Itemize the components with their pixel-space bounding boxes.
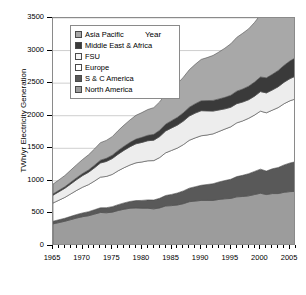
x-tick-label: 1985 — [162, 254, 179, 262]
x-major-tick — [141, 245, 142, 249]
x-minor-tick — [277, 245, 278, 248]
x-minor-tick — [153, 245, 154, 248]
x-minor-tick — [176, 245, 177, 248]
y-axis-title: TWh/yr Electricity Generation — [19, 36, 28, 206]
y-tick-label: 1000 — [27, 176, 44, 184]
x-major-tick — [82, 245, 83, 249]
x-axis-title: Year — [0, 30, 306, 39]
x-minor-tick — [159, 245, 160, 248]
x-major-tick — [200, 245, 201, 249]
x-tick-label: 1975 — [103, 254, 120, 262]
legend-swatch-icon — [75, 86, 82, 93]
legend-item-label: S & C America — [85, 75, 134, 83]
x-major-tick — [52, 245, 53, 249]
x-minor-tick — [64, 245, 65, 248]
x-major-tick — [259, 245, 260, 249]
legend-item: North America — [75, 84, 175, 95]
x-minor-tick — [236, 245, 237, 248]
x-tick-label: 1980 — [133, 254, 150, 262]
x-major-tick — [230, 245, 231, 249]
x-tick-label: 2005 — [281, 254, 298, 262]
x-minor-tick — [283, 245, 284, 248]
x-minor-tick — [212, 245, 213, 248]
x-major-tick — [111, 245, 112, 249]
x-minor-tick — [271, 245, 272, 248]
x-tick-label: 1965 — [44, 254, 61, 262]
x-major-tick — [171, 245, 172, 249]
x-tick-label: 1990 — [192, 254, 209, 262]
x-minor-tick — [265, 245, 266, 248]
x-minor-tick — [105, 245, 106, 248]
x-minor-tick — [188, 245, 189, 248]
x-minor-tick — [147, 245, 148, 248]
x-minor-tick — [165, 245, 166, 248]
legend-item-label: FSU — [85, 53, 100, 61]
x-minor-tick — [88, 245, 89, 248]
x-tick-label: 1995 — [221, 254, 238, 262]
x-minor-tick — [129, 245, 130, 248]
y-tick-label: 3500 — [27, 13, 44, 21]
x-minor-tick — [206, 245, 207, 248]
x-major-tick — [289, 245, 290, 249]
y-tick-label: 3000 — [27, 46, 44, 54]
x-minor-tick — [224, 245, 225, 248]
x-minor-tick — [123, 245, 124, 248]
x-minor-tick — [194, 245, 195, 248]
legend-item-label: North America — [85, 86, 133, 94]
x-minor-tick — [135, 245, 136, 248]
x-minor-tick — [99, 245, 100, 248]
x-minor-tick — [248, 245, 249, 248]
legend-item-label: Europe — [85, 64, 109, 72]
legend-item-label: Middle East & Africa — [85, 42, 152, 50]
x-minor-tick — [58, 245, 59, 248]
legend-swatch-icon — [75, 64, 82, 71]
legend-item: FSU — [75, 51, 175, 62]
x-minor-tick — [70, 245, 71, 248]
y-tick-label: 500 — [31, 208, 44, 216]
stacked-area-chart: 0500100015002000250030003500 TWh/yr Elec… — [0, 0, 306, 295]
legend-swatch-icon — [75, 75, 82, 82]
x-minor-tick — [254, 245, 255, 248]
x-minor-tick — [93, 245, 94, 248]
legend-item: Middle East & Africa — [75, 40, 175, 51]
x-tick-label: 1970 — [73, 254, 90, 262]
x-minor-tick — [182, 245, 183, 248]
y-tick-label: 2000 — [27, 111, 44, 119]
legend-swatch-icon — [75, 53, 82, 60]
y-tick-label: 2500 — [27, 78, 44, 86]
x-minor-tick — [218, 245, 219, 248]
x-minor-tick — [295, 245, 296, 248]
legend-swatch-icon — [75, 42, 82, 49]
y-tick-label: 1500 — [27, 143, 44, 151]
legend-item: Europe — [75, 62, 175, 73]
x-minor-tick — [76, 245, 77, 248]
x-tick-label: 2000 — [251, 254, 268, 262]
x-minor-tick — [117, 245, 118, 248]
x-minor-tick — [242, 245, 243, 248]
legend-item: S & C America — [75, 73, 175, 84]
x-axis: 196519701975198019851990199520002005 — [0, 245, 306, 295]
